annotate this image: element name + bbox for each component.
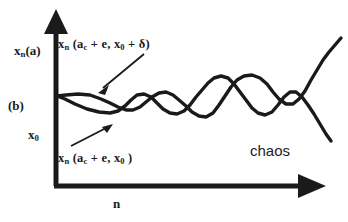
y-axis-label-suffix: (a)	[25, 43, 40, 58]
ann-low-sub: n	[64, 156, 69, 166]
y-origin-label-sub: 0	[35, 133, 39, 143]
y-axis-label-sub: n	[21, 49, 26, 59]
ann-low-sub3: 0	[120, 156, 124, 166]
ann-low-body2: + e, x	[88, 151, 121, 165]
ann-up-body2: + e, x	[88, 37, 121, 51]
y-axis-label: xn(a)	[14, 44, 41, 57]
lower-annotation-pointer	[71, 124, 113, 146]
y-axis-arrow-icon	[44, 9, 68, 34]
y-axis-label-var: x	[14, 43, 21, 58]
y-origin-label: x0	[28, 128, 39, 141]
panel-label-b: (b)	[8, 99, 24, 112]
upper-annotation-pointer	[98, 54, 144, 95]
ann-low-body: (a	[69, 151, 83, 165]
lower-curve-annotation: xn (ac + e, x0 )	[58, 152, 133, 165]
ann-up-body3: + δ)	[125, 37, 150, 51]
ann-low-sub2: c	[84, 156, 88, 166]
trajectory-curves	[57, 38, 341, 141]
ann-up-sub: n	[64, 42, 69, 52]
ann-low-body3: )	[125, 151, 133, 165]
arrow-up-right-icon	[102, 124, 113, 133]
y-origin-label-var: x	[28, 127, 35, 142]
ann-up-body: (a	[69, 37, 83, 51]
ann-up-sub2: c	[84, 42, 88, 52]
upper-curve-annotation: xn (ac + e, x0 + δ)	[58, 38, 150, 51]
x-axis-label: n	[113, 197, 120, 210]
ann-up-sub3: 0	[120, 42, 124, 52]
chaos-label: chaos	[250, 143, 290, 158]
x-axis-arrow-icon	[298, 174, 326, 198]
chaos-divergence-figure: xn(a) (b) x0 xn (ac + e, x0 + δ) xn (ac …	[0, 0, 348, 222]
plot-canvas	[0, 0, 348, 222]
